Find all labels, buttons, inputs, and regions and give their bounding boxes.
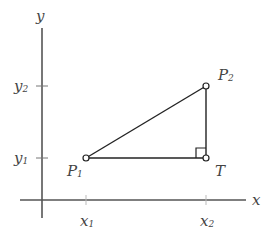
y1-label: y1 (13, 149, 28, 167)
point-p1 (83, 155, 89, 161)
coordinate-diagram: y x y2 y1 x1 x2 P1 P2 T (0, 0, 276, 240)
x-axis-label: x (252, 191, 261, 209)
point-p2 (203, 83, 209, 89)
point-t (203, 155, 209, 161)
hypotenuse (86, 86, 206, 158)
y-axis-label: y (35, 7, 45, 25)
y2-label: y2 (13, 77, 28, 95)
p2-label: P2 (217, 66, 234, 84)
t-label: T (215, 162, 226, 180)
p1-label: P1 (66, 162, 83, 180)
x1-label: x1 (80, 212, 94, 230)
x2-label: x2 (200, 212, 214, 230)
